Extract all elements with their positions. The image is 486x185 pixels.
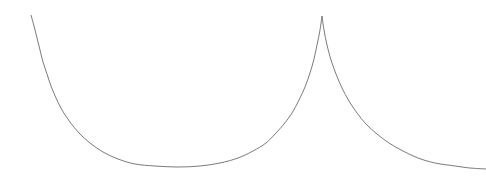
chart-background bbox=[0, 0, 486, 185]
chart-figure bbox=[0, 0, 486, 185]
chart-canvas bbox=[0, 0, 486, 185]
